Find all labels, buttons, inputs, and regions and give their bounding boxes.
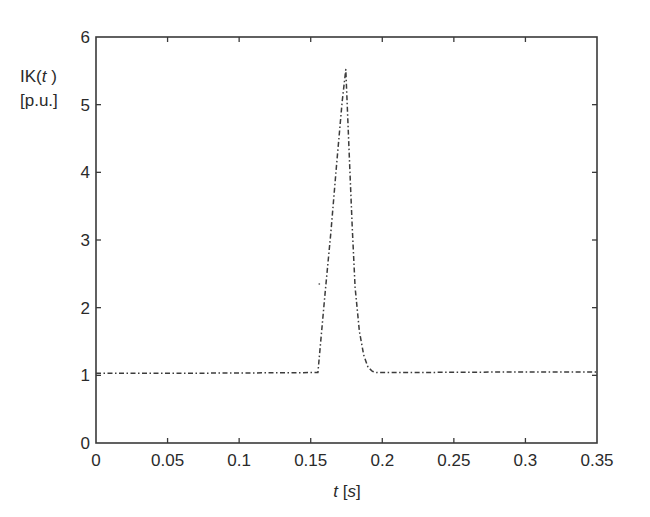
chart: IK(t ) [p.u.] 0123456 00.050.10.150.20.2…: [0, 0, 650, 517]
x-tick-label: 0.1: [227, 451, 251, 470]
y-tick-label: 4: [81, 163, 90, 182]
y-tick-label: 5: [81, 96, 90, 115]
series-line-ik: [96, 70, 597, 374]
y-axis-label-line-2: [p.u.]: [20, 91, 58, 110]
y-axis-label: IK(t ) [p.u.]: [20, 67, 58, 110]
x-tick-label: 0.2: [370, 451, 394, 470]
x-axis-ticks: 00.050.10.150.20.250.30.35: [91, 37, 613, 470]
stray-point: [318, 283, 320, 285]
annotations: [318, 283, 320, 285]
y-axis-label-line-1: IK(t ): [20, 67, 57, 86]
x-tick-label: 0.35: [580, 451, 613, 470]
x-tick-label: 0.05: [151, 451, 184, 470]
y-tick-label: 2: [81, 299, 90, 318]
y-axis-ticks: 0123456: [81, 28, 597, 453]
x-tick-label: 0: [91, 451, 100, 470]
y-tick-label: 6: [81, 28, 90, 47]
y-tick-label: 3: [81, 231, 90, 250]
x-axis-label: t [s]: [333, 482, 360, 501]
x-tick-label: 0.15: [294, 451, 327, 470]
x-tick-label: 0.25: [437, 451, 470, 470]
x-tick-label: 0.3: [514, 451, 538, 470]
y-tick-label: 1: [81, 366, 90, 385]
y-tick-label: 0: [81, 434, 90, 453]
